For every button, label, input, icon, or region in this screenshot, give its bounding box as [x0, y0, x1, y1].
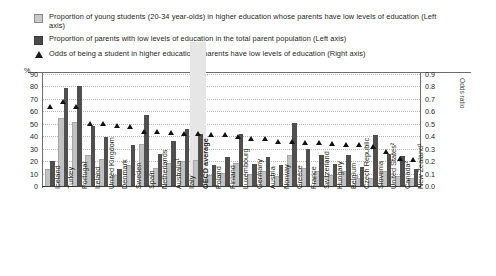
category-label: United Kingdom	[107, 137, 116, 189]
category-label: Finland	[228, 165, 237, 189]
category-label: Sweden	[134, 163, 143, 189]
odds-marker	[100, 121, 106, 126]
right-tick-label: 0.2	[425, 157, 445, 166]
right-tick-label: 0.3	[425, 145, 445, 154]
left-tick-label: 0	[22, 182, 38, 191]
left-tick-label: 60	[22, 107, 38, 116]
category-label: OECD average	[201, 138, 210, 189]
category-label: New Zealand¹	[416, 144, 425, 189]
odds-marker	[73, 104, 79, 109]
right-tick-label: 0.8	[425, 82, 445, 91]
left-tick-label: 40	[22, 132, 38, 141]
left-tick-label: 20	[22, 157, 38, 166]
odds-marker	[329, 141, 335, 146]
category-label: Germany	[255, 159, 264, 189]
odds-marker	[154, 129, 160, 134]
category-label: Slovenia	[376, 161, 385, 189]
right-tick-label: 0.0	[425, 182, 445, 191]
legend-label-students: Proportion of young students (20-34 year…	[49, 12, 454, 30]
odds-marker	[181, 131, 187, 136]
odds-marker	[195, 131, 201, 136]
left-tick-label: 30	[22, 145, 38, 154]
legend-item-students: Proportion of young students (20-34 year…	[34, 12, 454, 30]
right-tick-label: 0.9	[425, 70, 445, 79]
right-tick-label: 0.6	[425, 107, 445, 116]
odds-marker	[60, 99, 66, 104]
square-dark-icon	[34, 36, 43, 45]
left-tick-label: 80	[22, 82, 38, 91]
category-label: Czech Republic	[362, 138, 371, 189]
left-tick-label: 70	[22, 95, 38, 104]
category-label: Poland	[214, 166, 223, 189]
legend-label-odds: Odds of being a student in higher educat…	[49, 49, 365, 58]
category-label: Switzerland	[322, 151, 331, 189]
chart-figure: Proportion of young students (20-34 year…	[0, 0, 496, 276]
category-label: Belgium	[349, 163, 358, 189]
odds-marker	[262, 136, 268, 141]
category-label: Norway	[282, 164, 291, 189]
odds-marker	[316, 140, 322, 145]
odds-marker	[114, 123, 120, 128]
left-tick-label: 10	[22, 170, 38, 179]
square-light-icon	[34, 14, 43, 23]
odds-marker	[47, 104, 53, 109]
odds-marker	[248, 136, 254, 141]
legend-item-parents: Proportion of parents with low levels of…	[34, 34, 454, 45]
gridline	[43, 111, 420, 112]
odds-marker	[141, 129, 147, 134]
category-label: Australia¹	[174, 158, 183, 189]
category-label: Hungary	[335, 161, 344, 189]
category-label: Ireland	[93, 167, 102, 189]
category-label: Turkey	[66, 167, 75, 189]
category-label: Canada²	[403, 161, 412, 189]
odds-marker	[222, 132, 228, 137]
category-label: Portugal	[80, 162, 89, 189]
category-label: United States²	[389, 143, 398, 189]
odds-marker	[87, 121, 93, 126]
right-tick-label: 0.5	[425, 120, 445, 129]
category-label: Austria	[268, 166, 277, 189]
odds-marker	[275, 139, 281, 144]
category-label: Greece	[295, 165, 304, 189]
category-label: Italy	[187, 176, 196, 189]
right-axis-title: Odds ratio	[459, 78, 466, 108]
category-axis-labels: IcelandTurkeyPortugalIrelandUnited Kingd…	[43, 189, 420, 275]
left-tick-label: 50	[22, 120, 38, 129]
odds-marker	[127, 124, 133, 129]
odds-marker	[235, 134, 241, 139]
right-tick-label: 0.4	[425, 132, 445, 141]
gridline	[43, 99, 420, 100]
odds-marker	[302, 140, 308, 145]
right-tick-label: 0.7	[425, 95, 445, 104]
triangle-icon	[34, 51, 43, 58]
top-rule	[28, 72, 471, 73]
odds-marker	[208, 132, 214, 137]
category-label: Denmark	[120, 159, 129, 189]
odds-marker	[343, 142, 349, 147]
odds-marker	[168, 130, 174, 135]
gridline	[43, 86, 420, 87]
odds-marker	[289, 139, 295, 144]
right-tick-label: 0.1	[425, 170, 445, 179]
category-label: Netherlands	[160, 150, 169, 189]
legend-item-odds: Odds of being a student in higher educat…	[34, 49, 454, 58]
chart-legend: Proportion of young students (20-34 year…	[34, 12, 454, 63]
category-label: Spain	[147, 170, 156, 189]
category-label: France	[309, 166, 318, 189]
gridline	[43, 74, 420, 75]
category-label: Luxembourg	[241, 148, 250, 189]
category-label: Iceland	[53, 165, 62, 189]
left-tick-label: 90	[22, 70, 38, 79]
